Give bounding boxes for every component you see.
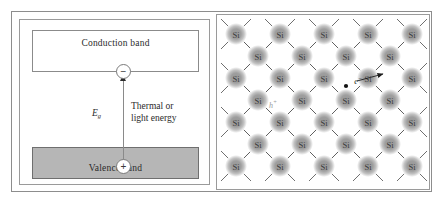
silicon-atom: Si — [269, 111, 291, 133]
silicon-atom: Si — [401, 23, 423, 45]
silicon-atom-label: Si — [276, 118, 284, 128]
covalent-bond-line — [287, 41, 295, 49]
covalent-bond-line — [221, 173, 229, 181]
covalent-bond-line — [419, 63, 427, 71]
free-electron-dot-icon — [344, 84, 348, 88]
covalent-bond-line — [265, 63, 273, 71]
silicon-atom-label: Si — [364, 162, 372, 172]
excitation-caption-line-2: light energy — [131, 113, 176, 125]
covalent-bond-line — [287, 63, 295, 71]
silicon-lattice-svg: SiSiSiSiSiSiSiSiSiSiSiSiSiSiSiSiSiSiSiSi… — [217, 15, 429, 189]
covalent-bond-line — [397, 173, 405, 181]
covalent-bond-line — [375, 85, 383, 93]
covalent-bond-line — [331, 85, 339, 93]
covalent-bond-line — [221, 107, 229, 115]
covalent-bond-line — [375, 173, 383, 181]
silicon-atom: Si — [291, 133, 313, 155]
covalent-bond-line — [243, 173, 251, 181]
covalent-bond-line — [419, 19, 427, 27]
covalent-bond-line — [221, 85, 229, 93]
covalent-bond-line — [309, 19, 317, 27]
covalent-bond-line — [221, 19, 229, 27]
semiconductor-figure: Conduction band Valence band − + Eg Ther… — [0, 0, 445, 204]
covalent-bond-line — [397, 129, 405, 137]
silicon-atom: Si — [401, 67, 423, 89]
silicon-atom-label: Si — [342, 52, 350, 62]
covalent-bond-line — [309, 107, 317, 115]
silicon-atom: Si — [335, 133, 357, 155]
covalent-bond-line — [309, 63, 317, 71]
silicon-atom: Si — [247, 89, 269, 111]
covalent-bond-line — [375, 63, 383, 71]
covalent-bond-line — [419, 173, 427, 181]
covalent-bond-line — [397, 41, 405, 49]
covalent-bond-line — [397, 63, 405, 71]
covalent-bond-line — [265, 151, 273, 159]
hole-annotation-label: h+ — [269, 99, 277, 110]
lattice-atom-layer: SiSiSiSiSiSiSiSiSiSiSiSiSiSiSiSiSiSiSiSi… — [225, 23, 423, 177]
covalent-bond-line — [287, 85, 295, 93]
silicon-atom-label: Si — [386, 52, 394, 62]
silicon-atom: Si — [379, 89, 401, 111]
excitation-caption-line-1: Thermal or — [131, 101, 176, 113]
silicon-atom-label: Si — [298, 52, 306, 62]
covalent-bond-line — [243, 41, 251, 49]
excitation-caption: Thermal or light energy — [131, 101, 176, 124]
covalent-bond-line — [309, 129, 317, 137]
covalent-bond-line — [221, 41, 229, 49]
silicon-atom-label: Si — [408, 162, 416, 172]
silicon-atom: Si — [379, 133, 401, 155]
silicon-atom: Si — [357, 23, 379, 45]
covalent-bond-line — [397, 151, 405, 159]
silicon-atom-label: Si — [232, 30, 240, 40]
silicon-atom-label: Si — [364, 118, 372, 128]
silicon-atom-label: Si — [276, 30, 284, 40]
covalent-bond-line — [353, 85, 361, 93]
energy-gap-subscript: g — [98, 112, 101, 119]
covalent-bond-line — [243, 85, 251, 93]
silicon-atom: Si — [269, 155, 291, 177]
band-diagram-panel: Conduction band Valence band − + Eg Ther… — [19, 19, 210, 185]
silicon-atom-label: Si — [276, 162, 284, 172]
covalent-bond-line — [309, 151, 317, 159]
silicon-atom: Si — [357, 155, 379, 177]
silicon-atom-label: Si — [254, 52, 262, 62]
covalent-bond-line — [375, 129, 383, 137]
covalent-bond-line — [419, 85, 427, 93]
silicon-atom: Si — [247, 133, 269, 155]
covalent-bond-line — [309, 85, 317, 93]
covalent-bond-line — [331, 151, 339, 159]
covalent-bond-line — [265, 85, 273, 93]
covalent-bond-line — [353, 151, 361, 159]
covalent-bond-line — [397, 107, 405, 115]
silicon-atom: Si — [379, 45, 401, 67]
silicon-atom: Si — [313, 111, 335, 133]
conduction-band-label: Conduction band — [33, 38, 198, 48]
silicon-atom: Si — [401, 155, 423, 177]
covalent-bond-line — [331, 107, 339, 115]
silicon-atom-label: Si — [408, 30, 416, 40]
covalent-bond-line — [375, 41, 383, 49]
covalent-bond-line — [221, 151, 229, 159]
covalent-bond-line — [287, 151, 295, 159]
covalent-bond-line — [265, 129, 273, 137]
silicon-atom-label: Si — [364, 30, 372, 40]
electron-carrier-icon: − — [116, 64, 131, 79]
silicon-atom: Si — [225, 67, 247, 89]
silicon-atom: Si — [313, 155, 335, 177]
conduction-band-box: Conduction band — [32, 30, 199, 72]
covalent-bond-line — [331, 129, 339, 137]
covalent-bond-line — [353, 63, 361, 71]
silicon-atom-label: Si — [232, 74, 240, 84]
silicon-atom-label: Si — [298, 96, 306, 106]
excitation-arrow-shaft — [123, 79, 124, 162]
covalent-bond-line — [287, 19, 295, 27]
covalent-bond-line — [287, 173, 295, 181]
covalent-bond-line — [265, 173, 273, 181]
silicon-atom: Si — [313, 23, 335, 45]
silicon-atom-label: Si — [320, 118, 328, 128]
energy-gap-label: Eg — [92, 108, 101, 119]
silicon-atom-label: Si — [342, 96, 350, 106]
covalent-bond-line — [221, 129, 229, 137]
covalent-bond-line — [331, 19, 339, 27]
